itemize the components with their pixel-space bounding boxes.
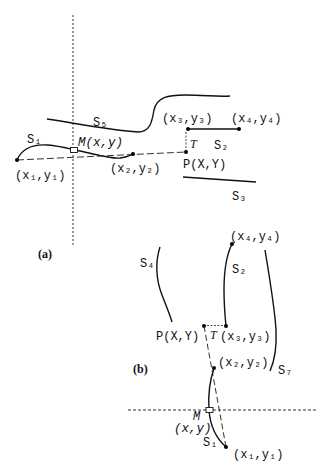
point-x1-y1 [15,158,19,162]
b-label-pt4: (x₄,y₄) [230,230,280,244]
curve-s4 [157,247,172,322]
label-t: T [190,137,198,151]
caption-b: (b) [133,362,148,376]
point-x2-y2 [131,152,135,156]
figure-a: S₅ S₁ M(x,y) (x₁,y₁) (x₂,y₂) (x₃,y₃) (x₄… [15,15,281,261]
b-label-t: T [210,328,218,342]
figure-b: (x₄,y₄) S₄ S₂ P(X,Y) T (x₃,y₃) (x₂,y₂) S… [128,230,318,462]
b-label-s2: S₂ [232,263,246,277]
label-s3: S₃ [232,190,246,204]
diagram-canvas: S₅ S₁ M(x,y) (x₁,y₁) (x₂,y₂) (x₃,y₃) (x₄… [0,0,330,473]
b-label-m-coords: (x,y) [174,422,212,436]
label-pt2: (x₂,y₂) [110,162,160,176]
m-point-marker [71,148,78,153]
b-label-s1: S₁ [203,436,217,450]
point-b-x1-y1 [224,445,228,449]
curve-s7 [265,250,276,371]
b-label-pt2: (x₂,y₂) [218,356,268,370]
b-m-point-marker [206,408,213,413]
caption-a: (a) [38,247,52,261]
point-x3-y3 [186,127,190,131]
label-p-point: P(X,Y) [183,158,226,172]
label-pt3: (x₃,y₃) [162,112,212,126]
b-label-pt3: (x₃,y₃) [220,330,270,344]
b-label-s4: S₄ [140,257,154,271]
b-label-p-point: P(X,Y) [156,330,199,344]
label-s2: S₂ [214,139,228,153]
label-m-point: M(x,y) [78,136,123,150]
dashed-line-x1-to-p [17,152,186,160]
b-label-s7: S₇ [278,364,292,378]
segment-s3 [183,177,256,182]
label-s1: S₁ [27,133,41,147]
label-pt1: (x₁,y₁) [15,169,65,183]
point-x4-y4 [237,127,241,131]
b-label-pt1: (x₁,y₁) [233,448,283,462]
point-b-x2-y2 [212,366,216,370]
point-p [184,150,188,154]
point-b-x3-y3 [224,324,228,328]
curve-s2 [224,244,232,326]
label-s5: S₅ [93,116,107,130]
label-pt4: (x₄,y₄) [231,112,281,126]
